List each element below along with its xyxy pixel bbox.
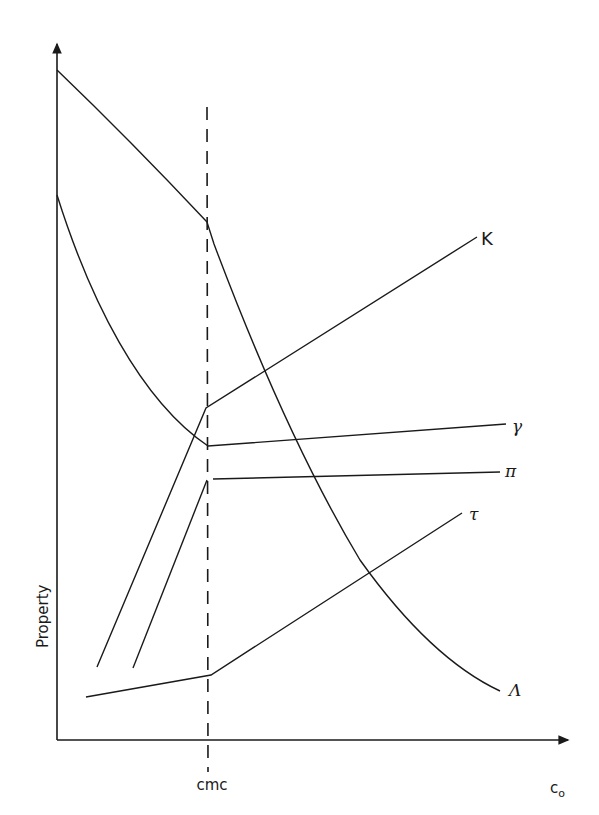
curve-lambda [57, 70, 500, 691]
curve-k [97, 237, 477, 667]
property-vs-concentration-diagram: K γ π τ Λ Property cmc co [0, 0, 599, 815]
curve-pi [133, 480, 207, 668]
label-k: K [481, 228, 494, 249]
cmc-dashed-line [207, 107, 208, 772]
x-axis-label-main: c [550, 779, 558, 797]
label-gamma: γ [512, 416, 523, 436]
y-axis-label: Property [34, 584, 52, 648]
x-axis-label-subscript: o [558, 787, 565, 800]
cmc-label: cmc [196, 776, 227, 794]
x-axis-label: co [550, 779, 565, 800]
curve-tau [86, 513, 462, 697]
curve-pi-plateau [213, 472, 500, 479]
label-tau: τ [469, 504, 479, 524]
label-lambda: Λ [507, 680, 521, 700]
label-pi: π [504, 461, 517, 481]
